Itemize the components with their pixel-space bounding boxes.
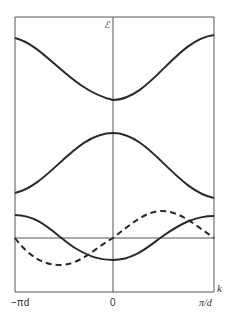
x-tick-center: 0 (110, 297, 116, 308)
middle-band-curve (15, 133, 214, 198)
x-tick-right: π/d (199, 297, 213, 308)
x-tick-left: −πd (11, 297, 29, 308)
band-diagram: ℰ k −πd 0 π/d (0, 0, 234, 325)
energy-axis-label: ℰ (104, 20, 111, 30)
upper-band-curve (15, 35, 214, 100)
k-axis-label: k (217, 282, 223, 294)
frame (15, 17, 214, 292)
